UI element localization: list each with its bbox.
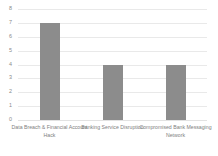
gridline (18, 120, 207, 121)
x-axis: Data Breach & Financial Account HackBank… (18, 123, 207, 156)
y-axis-tick-label: 5 (9, 48, 12, 53)
gridline (18, 9, 207, 10)
y-axis-tick-label: 8 (9, 6, 12, 11)
y-axis-tick-label: 3 (9, 76, 12, 81)
plot-area (18, 9, 207, 120)
bar-chart: 012345678 Data Breach & Financial Accoun… (0, 0, 218, 156)
bar (166, 65, 186, 121)
y-axis-tick-label: 6 (9, 34, 12, 39)
y-axis-tick-label: 7 (9, 20, 12, 25)
y-axis-tick-label: 4 (9, 62, 12, 67)
bar (103, 65, 123, 121)
bar (40, 23, 60, 120)
y-axis-tick-label: 0 (9, 117, 12, 122)
x-axis-category-label: Compromised Bank Messaging Network (138, 123, 214, 139)
y-axis-tick-label: 2 (9, 90, 12, 95)
y-axis-tick-label: 1 (9, 103, 12, 108)
